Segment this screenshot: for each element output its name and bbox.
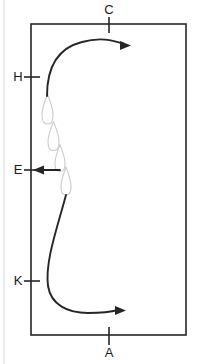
upper-flow-arrow-path <box>47 39 124 96</box>
upper-flow-arrow-head <box>120 41 131 50</box>
lower-flow-arrow-head <box>115 306 126 315</box>
droplet-2 <box>48 122 59 151</box>
droplet-3 <box>55 145 65 172</box>
axis-label-h: H <box>13 69 22 84</box>
diagram-svg: CAHEK <box>0 0 197 364</box>
left-pointing-arrow-head <box>33 165 44 174</box>
figure-canvas: CAHEK <box>0 0 197 364</box>
axis-label-a: A <box>105 345 114 360</box>
droplet-1 <box>42 94 53 124</box>
rectangle-border <box>31 24 186 335</box>
axis-label-e: E <box>14 162 23 177</box>
axis-label-c: C <box>104 2 113 17</box>
axis-label-k: K <box>14 273 23 288</box>
lower-flow-arrow-path <box>47 195 118 313</box>
